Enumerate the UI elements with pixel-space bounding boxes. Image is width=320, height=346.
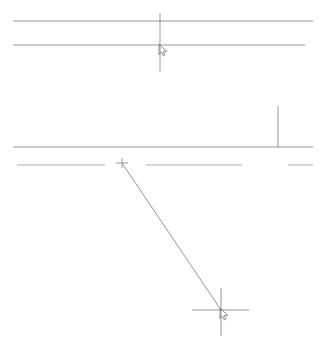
measurement-diagonal[interactable]	[122, 163, 221, 310]
bottom-crosshair	[192, 288, 249, 336]
drawing-canvas[interactable]	[0, 0, 320, 346]
snap-marker-start	[116, 158, 128, 168]
drawing-surface[interactable]	[0, 0, 320, 346]
vertical-lines-group	[160, 13, 278, 147]
horizontal-lines-group	[13, 21, 313, 147]
